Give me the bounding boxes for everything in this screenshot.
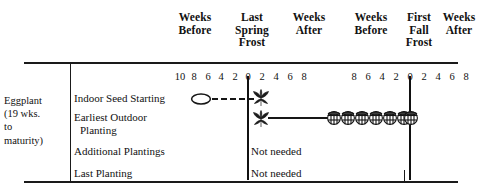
row-label-line: Indoor Seed Starting: [74, 92, 165, 104]
spring-tick: 8: [187, 71, 201, 82]
row-label-additional-plantings: Additional Plantings: [74, 145, 165, 158]
header-line: Frost: [398, 36, 440, 49]
spring-tick-zero: 0: [241, 71, 255, 82]
last-spring-frost-line: [247, 76, 249, 180]
header-line: Fall: [398, 24, 440, 37]
header-line: Before: [341, 24, 401, 37]
header-line: After: [280, 24, 338, 37]
row-label-earliest-outdoor-planting: Earliest Outdoor Planting: [74, 111, 147, 138]
header-first-fall-frost: First Fall Frost: [398, 11, 440, 49]
spring-tick: 2: [228, 71, 242, 82]
spring-tick: 8: [297, 71, 311, 82]
header-line: After: [437, 24, 481, 37]
header-last-spring-frost: Last Spring Frost: [224, 11, 280, 49]
row-label-line: Additional Plantings: [74, 145, 165, 157]
spring-tick: 2: [255, 71, 269, 82]
header-line: First: [398, 11, 440, 24]
row-label-line: Earliest Outdoor: [74, 111, 147, 123]
seed-icon: [190, 92, 212, 106]
spring-tick: 10: [173, 71, 187, 82]
header-weeks-before-fall: Weeks Before: [341, 11, 401, 36]
row-label-line: Last Planting: [74, 167, 132, 179]
seedling-icon: [251, 110, 271, 129]
first-fall-frost-line: [409, 76, 411, 180]
plant-maturity-line: (19 wks.: [4, 107, 70, 120]
plant-name-block: Eggplant (19 wks. to maturity): [4, 94, 70, 147]
spring-tick: 6: [201, 71, 215, 82]
fall-tick: 4: [431, 71, 445, 82]
header-line: Weeks: [341, 11, 401, 24]
header-weeks-after-spring: Weeks After: [280, 11, 338, 36]
header-weeks-after-fall: Weeks After: [437, 11, 481, 36]
row-label-line: Planting: [74, 124, 147, 137]
plant-column-divider: [70, 62, 71, 182]
right-column-divider: [404, 170, 405, 182]
header-line: Weeks: [280, 11, 338, 24]
fall-tick: 4: [375, 71, 389, 82]
plant-maturity-line: to: [4, 120, 70, 133]
spring-tick: 6: [283, 71, 297, 82]
note-last-planting: Not needed: [251, 167, 301, 180]
header-weeks-before-spring: Weeks Before: [164, 11, 226, 36]
spring-tick: 4: [269, 71, 283, 82]
fruit-icon: [402, 108, 420, 126]
note-additional-plantings: Not needed: [251, 145, 301, 158]
fall-tick: 2: [389, 71, 403, 82]
fall-tick: 6: [445, 71, 459, 82]
fall-tick: 8: [347, 71, 361, 82]
row-label-indoor-seed-starting: Indoor Seed Starting: [74, 92, 165, 105]
seedling-icon: [251, 89, 271, 108]
header-line: Last: [224, 11, 280, 24]
table-bottom-rule: [24, 181, 458, 183]
table-top-rule: [24, 62, 458, 64]
indoor-seed-dashed-line: [212, 98, 254, 100]
header-line: Before: [164, 24, 226, 37]
plant-name-label: Eggplant: [4, 94, 70, 107]
fall-tick: 8: [459, 71, 473, 82]
header-line: Frost: [224, 36, 280, 49]
plant-maturity-line: maturity): [4, 134, 70, 147]
fall-tick: 2: [417, 71, 431, 82]
outdoor-planting-solid-line: [268, 117, 330, 119]
row-label-last-planting: Last Planting: [74, 167, 132, 180]
spring-tick: 4: [214, 71, 228, 82]
header-line: Spring: [224, 24, 280, 37]
fall-tick-zero: 0: [403, 71, 417, 82]
header-line: Weeks: [437, 11, 481, 24]
fall-tick: 6: [361, 71, 375, 82]
header-line: Weeks: [164, 11, 226, 24]
planting-calendar-chart: Weeks Before Last Spring Frost Weeks Aft…: [0, 0, 482, 190]
